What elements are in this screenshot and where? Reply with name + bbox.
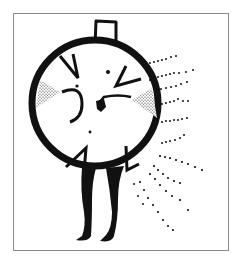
clock-figure-drawing (0, 0, 240, 264)
left-leg (76, 168, 96, 241)
right-leg (100, 166, 124, 241)
